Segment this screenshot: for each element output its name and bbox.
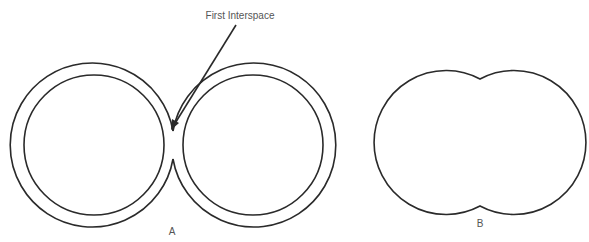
- diagram-canvas: [0, 0, 589, 242]
- figure-a-left-inner-circle: [24, 75, 164, 215]
- figure-a: [10, 63, 336, 227]
- figure-a-label: A: [169, 226, 176, 237]
- annotation-label: First Interspace: [206, 10, 275, 21]
- figure-a-left-outer-ring: [10, 63, 173, 227]
- figure-b-outline: [374, 70, 586, 214]
- annotation-arrow: [174, 25, 236, 125]
- figure-a-right-inner-circle: [183, 75, 323, 215]
- figure-b-label: B: [477, 218, 484, 229]
